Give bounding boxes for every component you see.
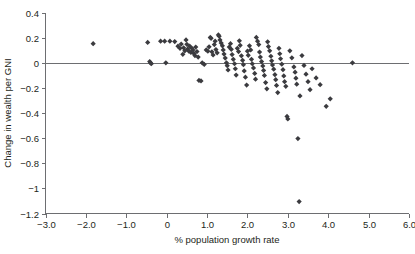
- data-point: [234, 72, 239, 77]
- data-point: [293, 76, 298, 81]
- data-point: [257, 49, 262, 54]
- data-point: [318, 82, 323, 87]
- data-point: [221, 52, 226, 57]
- data-point: [247, 43, 252, 48]
- y-tick-label: −0.6: [20, 133, 39, 144]
- data-point: [232, 61, 237, 66]
- x-tick-label: −3.0: [37, 219, 56, 230]
- data-point: [274, 83, 279, 88]
- data-point: [283, 84, 288, 89]
- data-point: [263, 80, 268, 85]
- x-tick-marks: [47, 214, 410, 218]
- data-point: [269, 58, 274, 63]
- data-point: [267, 48, 272, 53]
- data-point: [253, 77, 258, 82]
- data-point: [264, 86, 269, 91]
- data-point: [266, 44, 271, 49]
- data-point: [278, 56, 283, 61]
- data-point: [294, 82, 299, 87]
- data-point: [231, 57, 236, 62]
- data-point: [260, 63, 265, 68]
- y-tick-label: −1: [28, 183, 39, 194]
- data-point: [262, 73, 267, 78]
- x-tick-label: −2.0: [77, 219, 96, 230]
- data-point: [250, 61, 255, 66]
- data-point: [162, 39, 167, 44]
- data-point: [251, 65, 256, 70]
- data-point: [239, 53, 244, 58]
- y-tick-label: −0.8: [20, 158, 39, 169]
- data-point: [172, 39, 177, 44]
- data-point: [258, 55, 263, 60]
- data-point: [295, 136, 300, 141]
- data-point: [350, 60, 355, 65]
- data-point: [314, 75, 319, 80]
- data-point: [242, 68, 247, 73]
- y-axis-title: Change in wealth per GNI: [2, 58, 13, 167]
- data-point-group: [91, 32, 355, 204]
- data-point: [244, 82, 249, 87]
- plot-axes: [45, 13, 409, 214]
- data-point: [268, 54, 273, 59]
- data-point: [307, 87, 312, 92]
- data-point: [163, 60, 168, 65]
- data-point: [287, 48, 292, 53]
- y-tick-marks: [42, 14, 46, 215]
- x-tick-label: 3.0: [282, 219, 295, 230]
- data-point: [249, 57, 254, 62]
- data-point: [309, 66, 314, 71]
- x-tick-label: 5.0: [363, 219, 376, 230]
- data-point: [279, 62, 284, 67]
- data-point: [272, 72, 277, 77]
- data-point: [225, 67, 230, 72]
- data-point: [289, 55, 294, 60]
- data-point: [277, 51, 282, 56]
- data-point: [145, 40, 150, 45]
- x-axis-title: % population growth rate: [174, 234, 279, 245]
- x-tick-label: −1.0: [117, 219, 136, 230]
- data-point: [297, 199, 302, 204]
- data-point: [252, 71, 257, 76]
- y-tick-label: 0.4: [26, 8, 39, 19]
- data-point: [243, 75, 248, 80]
- data-point: [281, 73, 286, 78]
- data-point: [229, 52, 234, 57]
- y-tick-labels: 0.40.20−0.2−0.4−0.6−0.8−1−1.2: [20, 8, 39, 220]
- data-point: [221, 47, 226, 52]
- data-point: [261, 68, 266, 73]
- data-point: [265, 39, 270, 44]
- data-point: [167, 39, 172, 44]
- x-tick-label: 2.0: [241, 219, 254, 230]
- y-tick-label: −0.4: [20, 108, 39, 119]
- x-tick-labels: −3.0−2.0−1.001.02.03.04.05.06.0: [37, 219, 415, 230]
- data-point: [241, 62, 246, 67]
- data-point: [280, 67, 285, 72]
- data-point: [276, 46, 281, 51]
- data-point: [183, 37, 188, 42]
- data-point: [324, 104, 329, 109]
- x-tick-label: 6.0: [403, 219, 415, 230]
- x-tick-label: 0: [165, 219, 170, 230]
- data-point: [303, 72, 308, 77]
- data-point: [246, 53, 251, 58]
- chart-figure: 0.40.20−0.2−0.4−0.6−0.8−1−1.2 −3.0−2.0−1…: [0, 0, 415, 254]
- y-tick-label: 0: [34, 58, 39, 69]
- data-point: [297, 93, 302, 98]
- data-point: [299, 53, 304, 58]
- data-point: [282, 79, 287, 84]
- data-point: [233, 66, 238, 71]
- x-tick-label: 4.0: [322, 219, 335, 230]
- data-point: [91, 41, 96, 46]
- data-point: [223, 56, 228, 61]
- data-point: [305, 79, 310, 84]
- data-point: [328, 96, 333, 101]
- data-point: [237, 38, 242, 43]
- data-point: [275, 90, 280, 95]
- scatter-plot-canvas: 0.40.20−0.2−0.4−0.6−0.8−1−1.2 −3.0−2.0−1…: [0, 0, 415, 254]
- data-point: [291, 64, 296, 69]
- y-tick-label: −0.2: [20, 83, 39, 94]
- data-point: [240, 58, 245, 63]
- y-tick-label: 0.2: [26, 33, 39, 44]
- data-point: [271, 67, 276, 72]
- x-tick-label: 1.0: [201, 219, 214, 230]
